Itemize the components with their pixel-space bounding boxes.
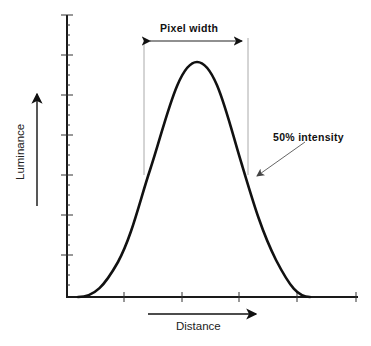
x-axis <box>66 292 358 302</box>
luminance-curve <box>78 62 310 297</box>
distance-axis-label: Distance <box>176 320 221 332</box>
luminance-profile-diagram <box>0 0 371 346</box>
y-axis <box>61 15 73 298</box>
intensity-pointer-arrow <box>257 142 305 176</box>
pixel-width-label: Pixel width <box>160 22 218 34</box>
half-max-guide-lines <box>144 38 248 175</box>
luminance-axis-label: Luminance <box>14 124 26 180</box>
fifty-percent-intensity-label: 50% intensity <box>273 131 344 143</box>
